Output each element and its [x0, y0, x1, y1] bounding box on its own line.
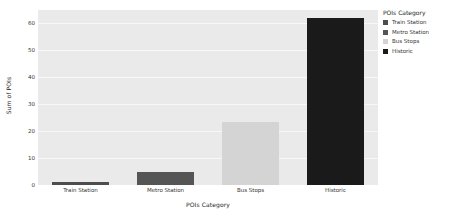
x-axis-title: POIs Category [38, 201, 378, 208]
y-axis-tick-label: 0 [4, 182, 38, 188]
bar[interactable] [307, 18, 363, 185]
plot-area [38, 10, 378, 185]
legend-item-label: Historic [392, 48, 413, 55]
bar[interactable] [52, 182, 108, 185]
legend-swatch-icon [383, 39, 388, 44]
y-axis-tick-label: 30 [4, 101, 38, 107]
x-axis-tick-labels: Train StationMetro StationBus StopsHisto… [38, 187, 378, 197]
x-axis-tick-label: Train Station [63, 187, 98, 193]
x-axis-tick-label: Historic [325, 187, 346, 193]
legend: POIs Category Train StationMetro Station… [383, 9, 449, 57]
x-axis-tick-label: Bus Stops [237, 187, 264, 193]
legend-title: POIs Category [383, 9, 449, 16]
legend-swatch-icon [383, 20, 388, 25]
y-axis-tick-label: 10 [4, 155, 38, 161]
legend-items: Train StationMetro StationBus StopsHisto… [383, 19, 449, 55]
y-axis-tick-label: 40 [4, 74, 38, 80]
legend-item[interactable]: Bus Stops [383, 38, 449, 45]
bar[interactable] [222, 122, 278, 185]
legend-swatch-icon [383, 49, 388, 54]
legend-item-label: Bus Stops [392, 38, 419, 45]
legend-swatch-icon [383, 30, 388, 35]
x-axis-tick-label: Metro Station [147, 187, 184, 193]
y-axis-tick-label: 20 [4, 128, 38, 134]
y-axis-tick-label: 50 [4, 47, 38, 53]
legend-item[interactable]: Historic [383, 48, 449, 55]
bar[interactable] [137, 172, 193, 185]
legend-item-label: Metro Station [392, 29, 429, 36]
legend-item[interactable]: Train Station [383, 19, 449, 26]
legend-item-label: Train Station [392, 19, 427, 26]
y-axis-tick-label: 60 [4, 20, 38, 26]
bar-chart-figure: Sum of POIs 0102030405060 Train StationM… [0, 0, 452, 220]
legend-item[interactable]: Metro Station [383, 29, 449, 36]
y-axis-tick-labels: 0102030405060 [0, 10, 38, 185]
